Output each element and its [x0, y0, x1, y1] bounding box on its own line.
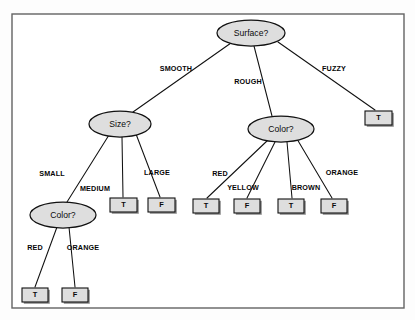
- node-label-color_right: Color?: [268, 124, 294, 134]
- edge-label-e_medium: MEDIUM: [80, 184, 110, 193]
- edge-label-e_large: LARGE: [144, 168, 170, 177]
- leaf-node-leaf_lred_t: T: [22, 288, 50, 304]
- leaf-label-leaf_red_t: T: [204, 201, 209, 210]
- leaf-node-leaf_red_t: T: [193, 199, 221, 215]
- leaf-label-leaf_large_f: F: [159, 200, 164, 209]
- leaf-node-leaf_yellow_f: F: [234, 199, 262, 215]
- decision-tree-diagram: Surface?Size?Color?Color? TTFTFTFTF SMOO…: [0, 0, 415, 320]
- leaf-label-leaf_lred_t: T: [33, 290, 38, 299]
- diagram-frame: [12, 14, 404, 308]
- edge-label-e_fuzzy: FUZZY: [322, 64, 346, 73]
- leaf-label-leaf_brown_t: T: [289, 201, 294, 210]
- edge-label-e_lorange: ORANGE: [67, 243, 100, 252]
- edge-label-e_small: SMALL: [39, 169, 65, 178]
- decision-node-color_left: Color?: [30, 202, 96, 228]
- node-label-surface: Surface?: [234, 28, 269, 38]
- edge-label-e_brown: BROWN: [292, 183, 321, 192]
- node-label-size: Size?: [109, 119, 131, 129]
- decision-node-surface: Surface?: [217, 20, 285, 46]
- leaf-label-leaf_lorange_f: F: [73, 290, 78, 299]
- leaf-node-leaf_large_f: F: [148, 198, 177, 214]
- decision-node-size: Size?: [89, 111, 151, 137]
- leaf-label-leaf_medium_t: T: [121, 200, 126, 209]
- leaf-node-leaf_orange_f: F: [321, 199, 349, 215]
- edge-label-e_red: RED: [212, 169, 228, 178]
- edge-label-e_lred: RED: [27, 243, 43, 252]
- edge-label-e_orange: ORANGE: [326, 168, 359, 177]
- decision-node-color_right: Color?: [248, 116, 314, 142]
- leaf-node-leaf_fuzzy_t: T: [365, 111, 394, 127]
- leaf-label-leaf_orange_f: F: [332, 201, 337, 210]
- edge-label-e_smooth: SMOOTH: [160, 64, 192, 73]
- edge-label-e_yellow: YELLOW: [227, 183, 259, 192]
- decision-tree-canvas: Surface?Size?Color?Color? TTFTFTFTF SMOO…: [0, 0, 415, 320]
- node-label-color_left: Color?: [50, 210, 76, 220]
- leaf-node-leaf_medium_t: T: [110, 198, 139, 214]
- leaf-node-leaf_brown_t: T: [278, 199, 306, 215]
- leaf-label-leaf_fuzzy_t: T: [376, 113, 381, 122]
- leaf-node-leaf_lorange_f: F: [62, 288, 90, 304]
- leaf-label-leaf_yellow_f: F: [245, 201, 250, 210]
- edge-label-e_rough: ROUGH: [234, 77, 262, 86]
